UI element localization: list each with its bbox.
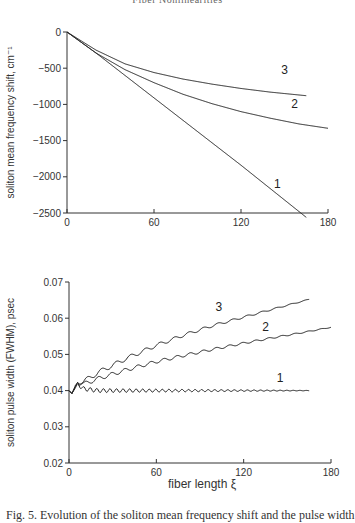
y-tick-label: 0 <box>55 27 61 38</box>
y-axis-title: soliton mean frequency shift, cm⁻¹ <box>5 46 16 199</box>
x-tick-label: 60 <box>148 217 160 228</box>
y-tick-label: 0.07 <box>44 277 64 288</box>
curve-label-2: 2 <box>291 97 298 111</box>
y-tick-label: 0.02 <box>44 458 64 469</box>
curve-label-1: 1 <box>274 177 281 191</box>
x-axis-title: fiber length ξ <box>168 477 237 491</box>
curve-1 <box>67 32 306 217</box>
curve-3 <box>69 299 309 393</box>
curve-1 <box>69 382 309 393</box>
x-tick-label: 0 <box>64 217 70 228</box>
y-tick-label: 0.04 <box>44 385 64 396</box>
x-tick-label: 180 <box>320 217 337 228</box>
pulse-width-chart: 0.070.060.050.040.030.02060120180soliton… <box>5 277 340 492</box>
figure-caption: Fig. 5. Evolution of the soliton mean fr… <box>6 508 355 523</box>
y-tick-label: −2500 <box>33 208 62 219</box>
x-tick-label: 60 <box>151 467 163 478</box>
x-tick-label: 180 <box>323 467 340 478</box>
curve-label-3: 3 <box>216 300 223 314</box>
curve-label-1: 1 <box>277 371 284 385</box>
y-tick-label: −500 <box>38 63 61 74</box>
y-tick-label: 0.03 <box>44 421 64 432</box>
y-axis-title: soliton pulse width (FWHM), psec <box>5 298 16 447</box>
curve-2 <box>67 32 328 128</box>
y-tick-label: −1000 <box>33 99 62 110</box>
curve-label-3: 3 <box>281 63 288 77</box>
frequency-shift-chart: 0−500−1000−1500−2000−2500060120180solito… <box>5 27 337 229</box>
x-tick-label: 120 <box>235 467 252 478</box>
y-tick-label: −1500 <box>33 135 62 146</box>
curve-label-2: 2 <box>262 320 269 334</box>
y-tick-label: −2000 <box>33 171 62 182</box>
curve-3 <box>67 32 306 96</box>
x-tick-label: 0 <box>66 467 72 478</box>
y-tick-label: 0.06 <box>44 313 64 324</box>
x-tick-label: 120 <box>233 217 250 228</box>
curve-2 <box>69 327 331 393</box>
y-tick-label: 0.05 <box>44 349 64 360</box>
